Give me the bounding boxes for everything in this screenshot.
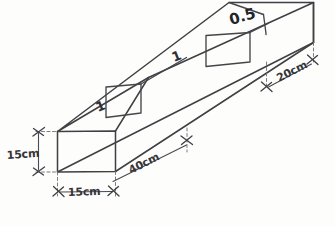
left-end-face-outline	[58, 131, 116, 172]
ratio-label-middle: 1	[170, 47, 184, 64]
width-dimension-label: 15cm	[68, 185, 101, 199]
partition-1	[106, 84, 141, 118]
length-dimension-label: 40cm	[126, 150, 161, 176]
height-dimension-group: 15cm	[6, 128, 57, 176]
prism-drawing: 15cm 15cm 40cm 20cm 1	[0, 0, 335, 226]
prism-body	[58, 3, 314, 173]
ratio-labels: 1 1 0.5	[94, 4, 258, 115]
ratio-label-right: 0.5	[227, 4, 258, 29]
width-dimension-group: 15cm	[53, 172, 119, 199]
length-dimension-group: 40cm	[113, 128, 193, 182]
depth-tick-right	[307, 55, 318, 65]
depth-dimension-group: 20cm	[261, 43, 318, 92]
depth-tick-left	[261, 82, 272, 92]
depth-dimension-label: 20cm	[274, 58, 309, 84]
partition-2	[206, 33, 250, 67]
bottom-front-edge	[116, 43, 314, 172]
sketch-page: 15cm 15cm 40cm 20cm 1	[0, 0, 335, 226]
front-face-outline	[58, 3, 314, 173]
height-dimension-label: 15cm	[6, 147, 39, 162]
length-tick-right	[181, 136, 193, 145]
